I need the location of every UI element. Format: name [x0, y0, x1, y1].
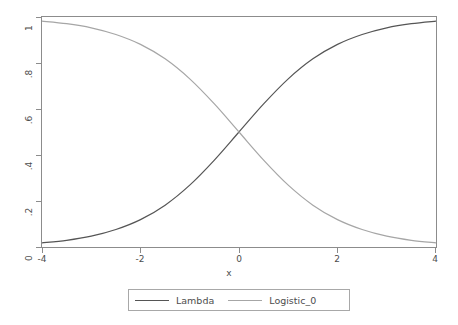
y-tick-1	[36, 17, 41, 18]
y-tick-label-06: .6	[24, 110, 34, 130]
y-tick-08	[36, 63, 41, 64]
y-tick-label-08: .8	[24, 64, 34, 84]
line-series-logistic-0	[42, 21, 436, 243]
legend-swatch-lambda	[135, 300, 169, 301]
legend-item-logistic-0[interactable]: Logistic_0	[228, 295, 316, 306]
y-tick-02	[36, 201, 41, 202]
x-tick-2	[337, 248, 338, 253]
y-tick-04	[36, 155, 41, 156]
x-tick-label-neg4: -4	[27, 254, 57, 264]
x-tick-neg4	[42, 248, 43, 253]
x-tick-label-4: 4	[420, 254, 450, 264]
legend-item-lambda[interactable]: Lambda	[135, 295, 214, 306]
x-tick-label-neg2: -2	[125, 254, 155, 264]
x-axis-title: x	[0, 268, 458, 279]
legend-label-logistic-0: Logistic_0	[269, 295, 316, 306]
y-tick-label-1: 1	[24, 18, 34, 38]
chart-container: 1 .8 .6 .4 .2 0 -4 -2 0 2 4 x Lambda Log…	[0, 0, 458, 325]
legend-label-lambda: Lambda	[176, 295, 214, 306]
x-tick-0	[239, 248, 240, 253]
y-tick-0	[36, 247, 41, 248]
y-tick-06	[36, 109, 41, 110]
x-tick-4	[435, 248, 436, 253]
x-tick-neg2	[140, 248, 141, 253]
plot-curves	[42, 17, 436, 247]
x-tick-label-2: 2	[322, 254, 352, 264]
chart-legend: Lambda Logistic_0	[128, 289, 350, 311]
y-tick-label-02: .2	[24, 202, 34, 222]
x-tick-label-0: 0	[224, 254, 254, 264]
y-tick-label-04: .4	[24, 156, 34, 176]
legend-swatch-logistic-0	[228, 300, 262, 301]
